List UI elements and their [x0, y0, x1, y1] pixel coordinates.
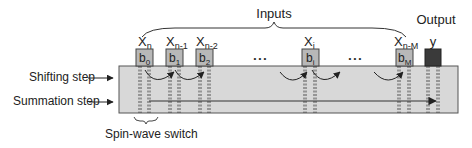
- ellipsis-2: • • •: [349, 54, 362, 63]
- cell-b0: b0: [136, 49, 153, 67]
- cell-b2: b2: [196, 49, 213, 67]
- spin-wave-shift-register-diagram: Inputs Output Xn Xn-1 Xn-2 Xi Xn-M y b0 …: [0, 0, 472, 148]
- switch-brace: [134, 117, 158, 124]
- svg-text:Xn-2: Xn-2: [196, 34, 218, 51]
- input-var-xn-2: Xn-2: [196, 34, 218, 51]
- ellipsis-1: • • •: [254, 54, 267, 63]
- svg-text:Xn: Xn: [138, 34, 152, 51]
- output-label: Output: [416, 12, 455, 27]
- input-var-xi: Xi: [304, 34, 315, 51]
- inputs-brace: [142, 22, 406, 37]
- inputs-label: Inputs: [256, 6, 292, 21]
- svg-text:Xi: Xi: [304, 34, 315, 51]
- cell-bi: bi: [302, 49, 319, 67]
- cell-b1: b1: [166, 49, 183, 67]
- summation-step-label: Summation step: [13, 94, 100, 108]
- output-var-y: y: [430, 34, 437, 49]
- cell-bm: bM: [396, 49, 413, 67]
- spin-wave-switch-label: Spin-wave switch: [105, 127, 198, 141]
- svg-text:Xn-1: Xn-1: [166, 34, 188, 51]
- shifting-step-label: Shifting step: [29, 70, 95, 84]
- input-var-xn-1: Xn-1: [166, 34, 188, 51]
- input-var-xn: Xn: [138, 34, 152, 51]
- spin-wave-waveguide: [119, 66, 458, 113]
- cell-output-y: [425, 49, 441, 66]
